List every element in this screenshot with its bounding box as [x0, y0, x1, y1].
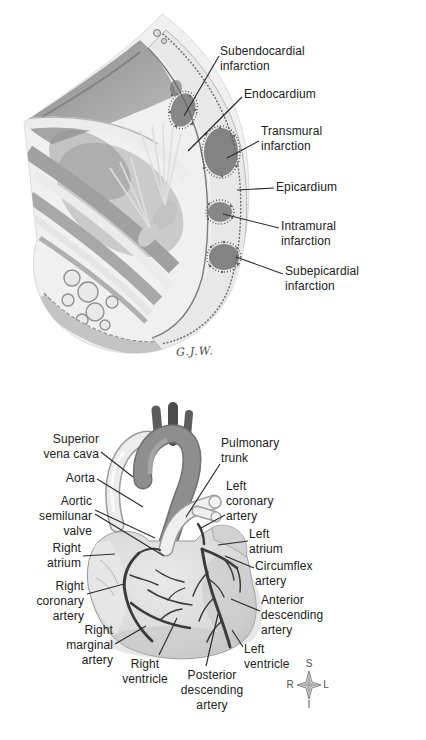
compass-inferior: I — [303, 700, 315, 710]
label-left-atrium: Left atrium — [249, 527, 283, 557]
label-intramural-infarction: Intramural infarction — [281, 219, 336, 249]
compass-left: L — [320, 680, 332, 690]
label-transmural-infarction: Transmural infarction — [261, 124, 322, 154]
label-circumflex-artery: Circumflex artery — [255, 559, 313, 589]
label-superior-vena-cava: Superior vena cava — [43, 432, 99, 462]
illustrator-signature: G.J.W. — [176, 344, 214, 358]
compass-superior: S — [303, 659, 315, 669]
label-anterior-descending-artery: Anterior descending artery — [261, 593, 323, 638]
label-right-atrium: Right atrium — [47, 541, 81, 571]
compass-right: R — [284, 680, 296, 690]
label-epicardium: Epicardium — [276, 180, 337, 195]
label-left-coronary-artery: Left coronary artery — [226, 479, 274, 524]
anatomy-artwork — [0, 0, 426, 740]
orientation-compass-icon — [297, 671, 321, 699]
label-posterior-descending-artery: Posterior descending artery — [171, 668, 253, 713]
label-subepicardial-infarction: Subepicardial infarction — [285, 264, 359, 294]
leader-subepicardial-infarction — [236, 257, 283, 274]
textbook-figure-page: Subendocardial infarction Endocardium Tr… — [0, 0, 426, 740]
label-pulmonary-trunk: Pulmonary trunk — [221, 436, 279, 466]
label-endocardium: Endocardium — [244, 87, 316, 102]
label-aortic-semilunar-valve: Aortic semilunar valve — [39, 494, 92, 539]
label-right-ventricle: Right ventricle — [113, 657, 177, 687]
label-right-coronary-artery: Right coronary artery — [37, 579, 85, 624]
label-aorta: Aorta — [66, 471, 95, 486]
label-subendocardial-infarction: Subendocardial infarction — [220, 44, 305, 74]
label-right-marginal-artery: Right marginal artery — [66, 623, 113, 668]
